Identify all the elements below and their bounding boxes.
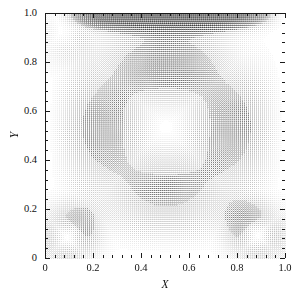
x-tick-minor-top: [266, 13, 267, 16]
x-tick-major-top: [141, 13, 142, 18]
y-tick-label: 0: [0, 253, 37, 264]
y-tick-label: 0.2: [0, 204, 37, 215]
x-tick-minor: [179, 255, 180, 258]
x-tick-major: [141, 253, 142, 258]
y-tick-major: [45, 111, 50, 112]
y-tick-minor: [45, 52, 48, 53]
y-tick-major-right: [280, 111, 285, 112]
x-tick-minor: [208, 255, 209, 258]
y-tick-minor-right: [282, 140, 285, 141]
y-tick-minor-right: [282, 238, 285, 239]
x-tick-minor: [199, 255, 200, 258]
x-tick-major-top: [93, 13, 94, 18]
y-tick-label: 0.6: [0, 106, 37, 117]
quiver-figure: 00.20.40.60.81.000.20.40.60.81.0 X Y: [0, 0, 300, 301]
x-tick-minor-top: [83, 13, 84, 16]
y-tick-minor-right: [282, 121, 285, 122]
x-tick-label: 1.0: [278, 263, 291, 274]
x-tick-label: 0.8: [230, 263, 243, 274]
x-tick-minor: [122, 255, 123, 258]
x-tick-minor: [227, 255, 228, 258]
x-tick-major: [189, 253, 190, 258]
y-tick-minor: [45, 229, 48, 230]
y-tick-minor: [45, 131, 48, 132]
x-tick-minor: [74, 255, 75, 258]
y-tick-major: [45, 258, 50, 259]
y-tick-minor: [45, 219, 48, 220]
y-tick-minor: [45, 199, 48, 200]
x-tick-minor-top: [218, 13, 219, 16]
y-tick-minor-right: [282, 101, 285, 102]
y-axis-title: Y: [8, 132, 20, 138]
x-tick-minor: [247, 255, 248, 258]
x-tick-major: [237, 253, 238, 258]
y-tick-major: [45, 160, 50, 161]
y-tick-minor-right: [282, 131, 285, 132]
y-tick-label: 0.8: [0, 57, 37, 68]
x-tick-minor-top: [160, 13, 161, 16]
y-tick-label: 0.4: [0, 155, 37, 166]
x-tick-minor: [64, 255, 65, 258]
y-tick-minor: [45, 42, 48, 43]
y-tick-minor-right: [282, 23, 285, 24]
y-tick-minor: [45, 33, 48, 34]
y-tick-major-right: [280, 258, 285, 259]
x-tick-minor-top: [55, 13, 56, 16]
velocity-vector-field-canvas: [46, 14, 286, 259]
x-tick-minor: [256, 255, 257, 258]
x-tick-label: 0.6: [182, 263, 195, 274]
x-tick-minor: [266, 255, 267, 258]
x-tick-minor-top: [199, 13, 200, 16]
y-tick-minor-right: [282, 170, 285, 171]
x-tick-minor-top: [247, 13, 248, 16]
x-tick-minor: [55, 255, 56, 258]
x-tick-minor-top: [112, 13, 113, 16]
y-tick-minor: [45, 72, 48, 73]
y-tick-minor: [45, 82, 48, 83]
y-tick-minor-right: [282, 52, 285, 53]
x-tick-minor-top: [122, 13, 123, 16]
x-tick-minor-top: [256, 13, 257, 16]
x-tick-label: 0.2: [86, 263, 99, 274]
x-tick-major-top: [285, 13, 286, 18]
y-tick-minor: [45, 91, 48, 92]
y-tick-minor-right: [282, 150, 285, 151]
y-tick-minor-right: [282, 72, 285, 73]
y-tick-minor: [45, 140, 48, 141]
x-tick-minor: [103, 255, 104, 258]
x-tick-label: 0.4: [134, 263, 147, 274]
y-tick-minor: [45, 189, 48, 190]
y-tick-minor: [45, 170, 48, 171]
x-tick-minor: [112, 255, 113, 258]
y-tick-minor-right: [282, 189, 285, 190]
y-tick-minor: [45, 101, 48, 102]
y-tick-minor: [45, 248, 48, 249]
x-tick-minor: [131, 255, 132, 258]
x-tick-label: 0: [42, 263, 47, 274]
x-tick-minor-top: [227, 13, 228, 16]
x-tick-minor-top: [103, 13, 104, 16]
x-tick-minor: [160, 255, 161, 258]
x-tick-minor: [151, 255, 152, 258]
y-tick-major: [45, 13, 50, 14]
y-tick-minor-right: [282, 180, 285, 181]
plot-frame: [45, 13, 285, 258]
y-tick-minor-right: [282, 219, 285, 220]
y-tick-minor-right: [282, 91, 285, 92]
y-tick-major: [45, 62, 50, 63]
x-tick-minor-top: [275, 13, 276, 16]
x-axis-title: X: [161, 278, 168, 290]
y-tick-major-right: [280, 160, 285, 161]
y-tick-major-right: [280, 13, 285, 14]
x-tick-major: [285, 253, 286, 258]
y-tick-major-right: [280, 62, 285, 63]
y-tick-minor-right: [282, 82, 285, 83]
y-tick-minor: [45, 121, 48, 122]
x-tick-minor-top: [208, 13, 209, 16]
y-tick-minor-right: [282, 229, 285, 230]
x-tick-major-top: [237, 13, 238, 18]
x-tick-minor: [170, 255, 171, 258]
x-tick-major-top: [189, 13, 190, 18]
x-tick-minor-top: [179, 13, 180, 16]
y-tick-label: 1.0: [0, 8, 37, 19]
